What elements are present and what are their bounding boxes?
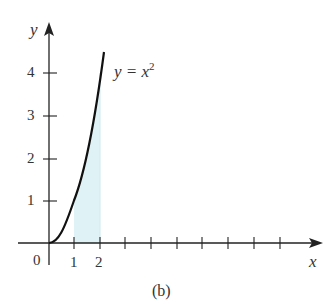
y-ticks (43, 73, 57, 201)
plot-area (0, 0, 323, 306)
curve-label: y = x2 (114, 60, 155, 82)
y-tick-label-4: 4 (27, 64, 35, 81)
x-tick-label-2: 2 (95, 254, 103, 271)
curve-label-exponent: 2 (149, 60, 155, 72)
x-axis-label: x (309, 252, 317, 272)
x-tick-label-1: 1 (70, 254, 78, 271)
figure-caption: (b) (152, 282, 171, 300)
y-axis-label: y (30, 20, 38, 40)
y-tick-label-3: 3 (27, 107, 35, 124)
y-tick-label-1: 1 (27, 192, 35, 209)
y-tick-label-2: 2 (27, 150, 35, 167)
origin-label: 0 (33, 252, 41, 269)
curve-label-text: y = x (114, 62, 149, 81)
